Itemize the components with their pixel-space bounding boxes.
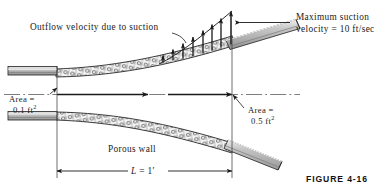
- area-inlet-value-group: 0.1 ft2: [13, 103, 37, 115]
- porous-wall-label: Porous wall: [108, 144, 156, 154]
- area-outlet-exponent: 2: [271, 114, 274, 121]
- area-inlet-label: Area =: [9, 94, 35, 104]
- diagram-canvas: Outflow velocity due to suction Maximum …: [0, 0, 386, 196]
- max-suction-label-line1: Maximum suction: [296, 12, 369, 22]
- area-outlet-value-group: 0.5 ft2: [251, 114, 275, 126]
- area-inlet-exponent: 2: [33, 103, 36, 110]
- area-outlet-value: 0.5 ft: [251, 116, 272, 126]
- outflow-velocity-label: Outflow velocity due to suction: [30, 22, 159, 32]
- figure-container: Outflow velocity due to suction Maximum …: [0, 0, 386, 196]
- inlet-pipe-upper: [8, 67, 57, 76]
- max-suction-label-line2: velocity = 10 ft/sec: [296, 24, 375, 34]
- area-outlet-label: Area =: [248, 105, 274, 115]
- figure-number-label: FIGURE 4-16: [306, 174, 368, 184]
- length-equals: = 1: [137, 166, 153, 176]
- area-inlet-value: 0.1 ft: [13, 105, 34, 115]
- length-label-group: L = 1′: [130, 166, 155, 176]
- length-prime: ′: [152, 166, 154, 176]
